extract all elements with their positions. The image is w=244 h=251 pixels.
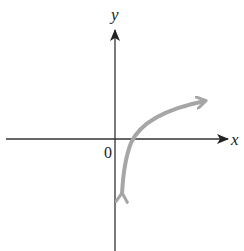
log-curve xyxy=(122,101,205,194)
origin-label: 0 xyxy=(104,144,112,161)
x-axis-label: x xyxy=(230,130,239,149)
y-axis-label: y xyxy=(109,5,119,24)
function-graph: y x 0 xyxy=(0,0,244,251)
